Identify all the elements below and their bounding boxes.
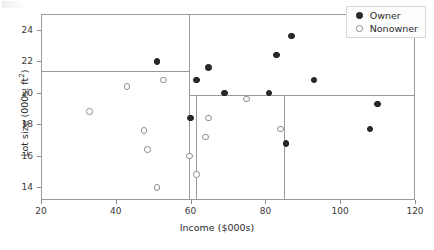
- open-circle-icon: [356, 25, 363, 32]
- y-axis-label: Lot size (000s. ft2): [18, 33, 30, 193]
- x-tick-label: 60: [185, 206, 196, 216]
- legend: Owner Nonowner: [346, 6, 426, 38]
- y-tick-mark: [37, 124, 41, 125]
- data-point-nonowner: [154, 184, 161, 191]
- plot-area: [41, 14, 415, 200]
- legend-entry-nonowner: Nonowner: [352, 23, 418, 34]
- y-axis-label-tail: ): [19, 70, 30, 74]
- data-point-nonowner: [86, 108, 93, 115]
- legend-entry-owner: Owner: [352, 10, 418, 21]
- data-point-nonowner: [144, 146, 151, 153]
- y-tick-mark: [37, 30, 41, 31]
- data-point-owner: [193, 77, 200, 84]
- y-axis-label-superscript: 2: [18, 73, 26, 77]
- data-point-owner: [283, 140, 290, 147]
- legend-label-nonowner: Nonowner: [370, 23, 418, 34]
- data-point-owner: [273, 52, 280, 59]
- data-point-nonowner: [186, 153, 193, 160]
- data-point-nonowner: [277, 126, 284, 133]
- x-tick-label: 100: [332, 206, 349, 216]
- data-point-owner: [374, 101, 381, 108]
- x-tick-label: 80: [260, 206, 271, 216]
- data-point-owner: [187, 115, 194, 122]
- x-tick-mark: [191, 200, 192, 204]
- data-point-nonowner: [205, 115, 212, 122]
- scatter-plot-figure: 20406080100120141618202224 Income ($000s…: [0, 0, 434, 250]
- y-tick-mark: [37, 61, 41, 62]
- y-tick-mark: [37, 93, 41, 94]
- data-point-owner: [221, 90, 228, 97]
- x-tick-mark: [265, 200, 266, 204]
- x-tick-label: 120: [406, 206, 423, 216]
- x-tick-mark: [41, 200, 42, 204]
- vertical-split-line: [196, 95, 197, 200]
- x-tick-mark: [340, 200, 341, 204]
- vertical-split-line: [189, 14, 190, 200]
- x-axis-label: Income ($000s): [0, 222, 434, 233]
- y-tick-mark: [37, 156, 41, 157]
- data-point-nonowner: [141, 127, 148, 134]
- data-point-owner: [205, 64, 212, 71]
- filled-circle-icon: [356, 12, 363, 19]
- horizontal-split-line: [41, 71, 189, 72]
- scan-artifact: [2, 1, 28, 8]
- x-tick-label: 40: [110, 206, 121, 216]
- vertical-split-line: [284, 95, 285, 200]
- y-tick-mark: [37, 187, 41, 188]
- data-point-nonowner: [193, 171, 200, 178]
- x-tick-label: 20: [35, 206, 46, 216]
- data-point-owner: [154, 58, 161, 65]
- legend-label-owner: Owner: [370, 10, 401, 21]
- x-tick-mark: [116, 200, 117, 204]
- data-point-nonowner: [202, 134, 209, 141]
- y-axis-label-text: Lot size (000s. ft: [19, 78, 30, 157]
- x-tick-mark: [415, 200, 416, 204]
- data-point-nonowner: [124, 83, 131, 90]
